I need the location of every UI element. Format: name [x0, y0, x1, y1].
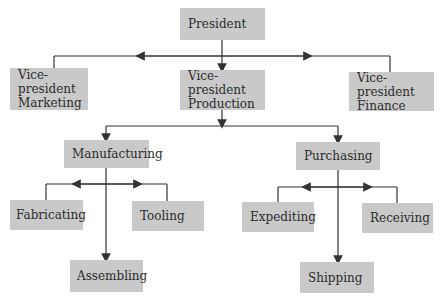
- node-label: Receiving: [370, 211, 430, 225]
- node-fabricating: Fabricating: [10, 200, 83, 230]
- node-label: Manufacturing: [72, 147, 163, 161]
- node-label: Shipping: [308, 271, 362, 285]
- node-label-line1: Vice-president: [357, 71, 434, 99]
- node-receiving: Receiving: [362, 203, 433, 233]
- node-label-line1: Vice-president: [188, 69, 265, 97]
- node-label: President: [188, 17, 246, 31]
- node-label: Tooling: [140, 209, 185, 223]
- node-shipping: Shipping: [300, 262, 374, 293]
- node-vp-production: Vice-president Production: [180, 70, 265, 110]
- node-label-line2: Production: [188, 97, 265, 111]
- node-label: Assembling: [77, 269, 147, 283]
- node-manufacturing: Manufacturing: [64, 140, 149, 168]
- node-label-line1: Vice-president: [18, 68, 88, 96]
- node-expediting: Expediting: [242, 202, 314, 232]
- node-tooling: Tooling: [132, 201, 204, 231]
- node-label: Purchasing: [304, 149, 373, 163]
- node-vp-marketing: Vice-president Marketing: [10, 68, 88, 110]
- node-label-line2: Finance: [357, 99, 434, 113]
- node-label-line2: Marketing: [18, 96, 88, 110]
- node-purchasing: Purchasing: [296, 142, 380, 170]
- node-president: President: [180, 8, 265, 40]
- node-vp-finance: Vice-president Finance: [349, 72, 434, 111]
- node-label: Expediting: [250, 210, 316, 224]
- node-label: Fabricating: [16, 208, 86, 222]
- node-assembling: Assembling: [70, 260, 143, 292]
